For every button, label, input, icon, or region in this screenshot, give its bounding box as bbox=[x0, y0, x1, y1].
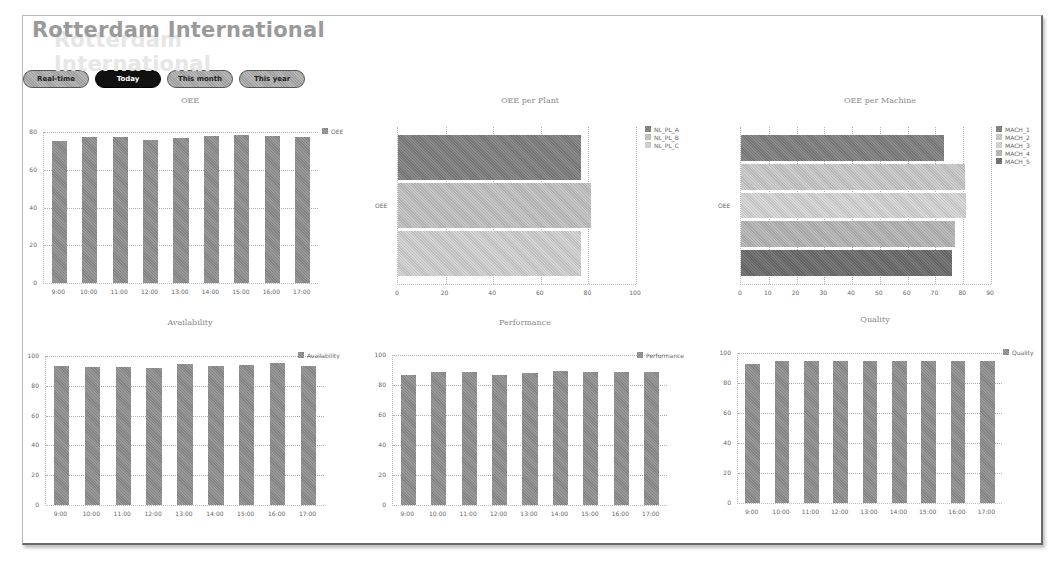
bar[interactable] bbox=[270, 363, 285, 505]
legend-item[interactable]: MACH_4 bbox=[996, 149, 1030, 157]
bar-nl-pl-a[interactable] bbox=[398, 135, 581, 180]
bar[interactable] bbox=[113, 137, 128, 283]
bar[interactable] bbox=[116, 367, 131, 505]
bar[interactable] bbox=[82, 137, 97, 283]
y-tick-label: 40 bbox=[19, 441, 39, 448]
bar[interactable] bbox=[644, 372, 659, 506]
bar[interactable] bbox=[980, 361, 995, 503]
legend-item[interactable]: Performance bbox=[637, 351, 684, 359]
legend-item[interactable]: MACH_2 bbox=[996, 133, 1030, 141]
bar[interactable] bbox=[234, 135, 249, 283]
bar[interactable] bbox=[177, 364, 192, 505]
legend-item[interactable]: NL_PL_B bbox=[645, 133, 679, 141]
x-tick-label: 16:00 bbox=[942, 508, 972, 515]
y-tick-label: 100 bbox=[711, 349, 731, 356]
x-tick-label: 16:00 bbox=[605, 510, 635, 517]
legend-item[interactable]: NL_PL_A bbox=[645, 125, 679, 133]
chart-legend: Availability bbox=[298, 351, 340, 359]
plot-area bbox=[45, 356, 324, 506]
x-tick-label: 100 bbox=[620, 289, 650, 296]
bar-mach-5[interactable] bbox=[741, 250, 952, 276]
x-tick-label: 17:00 bbox=[971, 508, 1001, 515]
y-tick-label: 40 bbox=[366, 441, 386, 448]
bar[interactable] bbox=[401, 375, 416, 506]
x-tick-label: 20 bbox=[781, 289, 811, 296]
y-tick-label: 60 bbox=[19, 412, 39, 419]
y-tick-label: 60 bbox=[366, 411, 386, 418]
bar[interactable] bbox=[745, 364, 760, 504]
gridline bbox=[44, 132, 318, 133]
bar[interactable] bbox=[301, 366, 316, 505]
bar-nl-pl-c[interactable] bbox=[398, 231, 581, 276]
y-tick-label: 20 bbox=[17, 241, 37, 248]
x-tick-label: 16:00 bbox=[256, 288, 286, 295]
bar[interactable] bbox=[295, 137, 310, 283]
bar[interactable] bbox=[583, 372, 598, 506]
x-tick-label: 14:00 bbox=[883, 508, 913, 515]
bar[interactable] bbox=[85, 367, 100, 505]
bar[interactable] bbox=[614, 372, 629, 505]
x-tick-label: 17:00 bbox=[293, 510, 323, 517]
legend-label: Availability bbox=[307, 352, 340, 359]
bar[interactable] bbox=[921, 361, 936, 503]
gridline bbox=[991, 127, 992, 284]
bar[interactable] bbox=[553, 371, 568, 505]
bar[interactable] bbox=[951, 361, 966, 503]
x-tick-label: 9:00 bbox=[737, 508, 767, 515]
bar[interactable] bbox=[492, 375, 507, 506]
bar[interactable] bbox=[143, 140, 158, 283]
legend-swatch-icon bbox=[996, 150, 1002, 156]
legend-item[interactable]: Quality bbox=[1003, 348, 1033, 356]
bar[interactable] bbox=[52, 141, 67, 284]
legend-item[interactable]: MACH_5 bbox=[996, 157, 1030, 165]
bar[interactable] bbox=[863, 361, 878, 503]
x-tick-label: 15:00 bbox=[575, 510, 605, 517]
legend-item[interactable]: MACH_3 bbox=[996, 141, 1030, 149]
bar[interactable] bbox=[775, 361, 790, 503]
bar-mach-2[interactable] bbox=[741, 164, 965, 190]
plot-area bbox=[740, 127, 991, 285]
bar-nl-pl-b[interactable] bbox=[398, 183, 591, 228]
bar[interactable] bbox=[204, 136, 219, 283]
x-tick-label: 13:00 bbox=[514, 510, 544, 517]
bar[interactable] bbox=[239, 365, 254, 505]
category-label: OEE bbox=[375, 202, 387, 209]
x-tick-label: 40 bbox=[836, 289, 866, 296]
bar[interactable] bbox=[833, 361, 848, 503]
legend-label: MACH_5 bbox=[1005, 158, 1030, 165]
bar[interactable] bbox=[462, 372, 477, 506]
bar[interactable] bbox=[431, 372, 446, 506]
legend-item[interactable]: NL_PL_C bbox=[645, 141, 679, 149]
legend-swatch-icon bbox=[996, 134, 1002, 140]
x-tick-label: 13:00 bbox=[169, 510, 199, 517]
bar[interactable] bbox=[146, 368, 161, 505]
bar[interactable] bbox=[265, 136, 280, 283]
x-tick-label: 12:00 bbox=[484, 510, 514, 517]
bar[interactable] bbox=[522, 373, 537, 505]
legend-item[interactable]: MACH_1 bbox=[996, 125, 1030, 133]
y-tick-label: 80 bbox=[19, 382, 39, 389]
legend-swatch-icon bbox=[645, 134, 651, 140]
chart-legend: Quality bbox=[1003, 348, 1033, 356]
x-tick-label: 9:00 bbox=[392, 510, 422, 517]
y-tick-label: 20 bbox=[19, 471, 39, 478]
bar[interactable] bbox=[892, 361, 907, 503]
legend-label: MACH_1 bbox=[1005, 126, 1030, 133]
x-tick-label: 17:00 bbox=[287, 288, 317, 295]
bar-mach-1[interactable] bbox=[741, 135, 944, 161]
y-tick-label: 60 bbox=[17, 166, 37, 173]
x-tick-label: 15:00 bbox=[231, 510, 261, 517]
bar[interactable] bbox=[208, 366, 223, 505]
legend-item[interactable]: Availability bbox=[298, 351, 340, 359]
plot-area bbox=[397, 127, 636, 285]
bar[interactable] bbox=[54, 366, 69, 505]
bar[interactable] bbox=[804, 361, 819, 503]
bar-mach-4[interactable] bbox=[741, 221, 955, 247]
bar-mach-3[interactable] bbox=[741, 193, 966, 219]
plot-area bbox=[43, 132, 318, 284]
x-tick-label: 0 bbox=[725, 289, 755, 296]
x-tick-label: 17:00 bbox=[636, 510, 666, 517]
legend-item[interactable]: OEE bbox=[322, 127, 343, 135]
legend-label: Performance bbox=[646, 352, 684, 359]
bar[interactable] bbox=[173, 138, 188, 283]
